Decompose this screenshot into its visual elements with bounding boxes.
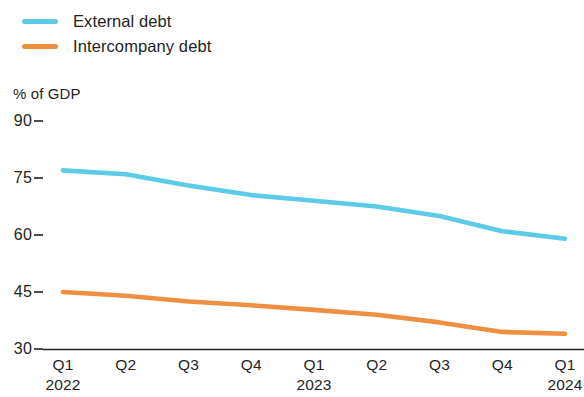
plot-svg bbox=[0, 0, 584, 397]
series-line-external-debt bbox=[63, 170, 565, 238]
y-axis-tick-label: 45 bbox=[0, 283, 32, 301]
x-axis-tick-label: Q1 bbox=[537, 356, 584, 374]
x-axis-tick-label: Q4 bbox=[474, 356, 530, 374]
x-axis-tick-label: Q2 bbox=[349, 356, 405, 374]
y-axis-tick-label: 75 bbox=[0, 169, 32, 187]
x-axis-tick-label: Q1 bbox=[35, 356, 91, 374]
x-axis-tick-label: Q4 bbox=[223, 356, 279, 374]
x-axis-year-label: 2023 bbox=[282, 376, 346, 394]
x-axis-year-label: 2024 bbox=[533, 376, 584, 394]
y-axis-tick-label: 90 bbox=[0, 112, 32, 130]
x-axis-tick-label: Q1 bbox=[286, 356, 342, 374]
series-line-intercompany-debt bbox=[63, 292, 565, 334]
x-axis-year-label: 2022 bbox=[31, 376, 95, 394]
plot-area: 9075604530 Q1Q2Q3Q4Q1Q2Q3Q4Q120222023202… bbox=[0, 0, 584, 397]
y-axis-tick-label: 30 bbox=[0, 340, 32, 358]
x-axis-tick-label: Q3 bbox=[161, 356, 217, 374]
y-axis-tick-label: 60 bbox=[0, 226, 32, 244]
y-axis-tick-marks bbox=[34, 121, 43, 349]
x-axis-tick-label: Q2 bbox=[98, 356, 154, 374]
chart-figure: External debt Intercompany debt % of GDP… bbox=[0, 0, 584, 397]
x-axis-tick-label: Q3 bbox=[412, 356, 468, 374]
